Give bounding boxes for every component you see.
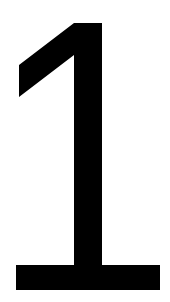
- numeral-one-glyph: [0, 0, 170, 302]
